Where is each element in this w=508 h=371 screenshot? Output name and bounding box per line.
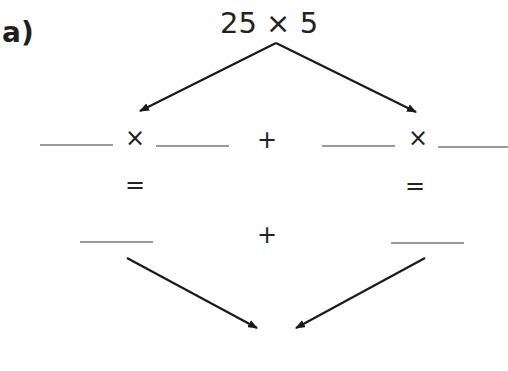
blank-right-product[interactable]	[391, 242, 464, 244]
equals-sign-left: =	[125, 173, 145, 197]
arrows-diagram	[0, 0, 508, 371]
arrow-bottom-right	[296, 258, 425, 328]
blank-left-factor-2[interactable]	[156, 145, 229, 147]
blank-right-factor-2[interactable]	[438, 146, 508, 148]
plus-sign-row3: +	[257, 223, 277, 247]
arrow-top-right	[276, 43, 416, 112]
plus-sign-row1: +	[257, 128, 277, 152]
blank-right-factor-1[interactable]	[322, 145, 395, 147]
arrow-top-left	[140, 43, 276, 111]
worksheet: a) 25 × 5 × + × = = +	[0, 0, 508, 371]
times-sign-left: ×	[125, 126, 145, 150]
blank-left-factor-1[interactable]	[40, 144, 113, 146]
times-sign-right: ×	[408, 126, 428, 150]
arrow-bottom-left	[127, 258, 257, 328]
equals-sign-right: =	[405, 174, 425, 198]
blank-left-product[interactable]	[80, 241, 153, 243]
